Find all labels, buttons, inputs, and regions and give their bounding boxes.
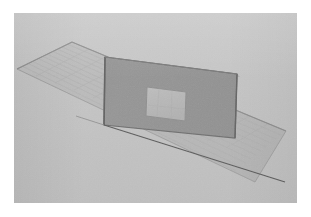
viewport-canvas[interactable] bbox=[14, 13, 297, 203]
viewport-3d[interactable] bbox=[14, 13, 297, 203]
wall-left-edge bbox=[104, 57, 105, 125]
window-opening-fill bbox=[146, 87, 186, 121]
window-opening[interactable] bbox=[146, 87, 186, 121]
screenshot-root bbox=[0, 0, 311, 217]
